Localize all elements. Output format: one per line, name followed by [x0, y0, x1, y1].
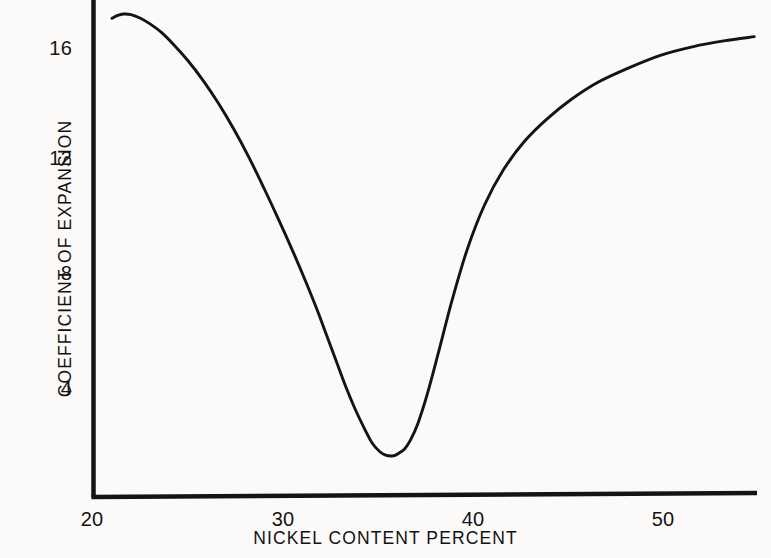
chart-figure: 16 12 8 4 20 30 40 50 COEFFICIENT OF EXP… — [0, 0, 771, 558]
x-axis-title: NICKEL CONTENT PERCENT — [0, 528, 771, 549]
y-axis-title: COEFFICIENT OF EXPANSION — [55, 89, 76, 429]
data-curve-line — [112, 14, 754, 456]
y-tick-label-16: 16 — [24, 37, 72, 60]
plot-area — [0, 0, 771, 558]
x-axis-line — [92, 493, 758, 497]
